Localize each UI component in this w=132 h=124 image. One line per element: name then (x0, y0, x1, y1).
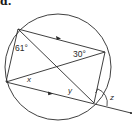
angle-label-z: z (109, 93, 114, 102)
diagonal-AD (18, 29, 94, 103)
chord-AC (6, 29, 18, 82)
chord-BD (94, 52, 105, 103)
line-end-dot (130, 112, 132, 114)
parallel-arrow-icon (48, 92, 53, 96)
chord-AB (18, 29, 105, 52)
angle-label-61: 61° (15, 43, 28, 53)
angle-label-y: y (67, 86, 73, 95)
circle-theorem-diagram: 61° 30° x y z (0, 0, 132, 124)
angle-label-x: x (26, 75, 32, 84)
angle-label-30: 30° (73, 49, 86, 59)
diagonal-CB (6, 52, 105, 82)
angle-arc-z (98, 89, 108, 106)
